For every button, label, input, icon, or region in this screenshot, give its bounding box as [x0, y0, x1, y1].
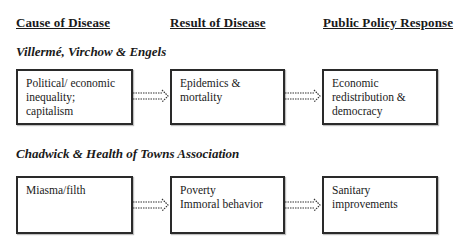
group-title-villerme: Villermé, Virchow & Engels	[16, 44, 166, 60]
result-box-1: Epidemics & mortality	[170, 69, 285, 125]
policy-box-1: Economic redistribution & democracy	[322, 69, 438, 125]
result-box-2: Poverty Immoral behavior	[170, 176, 285, 234]
column-header-cause: Cause of Disease	[16, 15, 110, 31]
group-title-chadwick: Chadwick & Health of Towns Association	[16, 146, 239, 162]
cause-box-2: Miasma/filth	[16, 176, 133, 234]
box-line: improvements	[332, 197, 428, 211]
box-line: capitalism	[26, 104, 123, 118]
box-line: Immoral behavior	[180, 197, 275, 211]
box-line: inequality;	[26, 90, 123, 104]
column-header-policy: Public Policy Response	[323, 15, 453, 31]
dotted-arrow-icon	[132, 198, 170, 212]
policy-box-2: Sanitary improvements	[322, 176, 438, 234]
dotted-arrow-icon	[284, 89, 322, 103]
box-line: Poverty	[180, 183, 275, 197]
box-line: Miasma/filth	[26, 183, 123, 197]
box-line: Political/ economic	[26, 76, 123, 90]
box-line: Sanitary	[332, 183, 428, 197]
column-header-result: Result of Disease	[170, 15, 266, 31]
box-line: redistribution &	[332, 90, 428, 104]
cause-box-1: Political/ economic inequality; capitali…	[16, 69, 133, 125]
box-line: democracy	[332, 104, 428, 118]
box-line: Epidemics &	[180, 76, 275, 90]
dotted-arrow-icon	[284, 198, 322, 212]
box-line: Economic	[332, 76, 428, 90]
box-line: mortality	[180, 90, 275, 104]
dotted-arrow-icon	[132, 89, 170, 103]
